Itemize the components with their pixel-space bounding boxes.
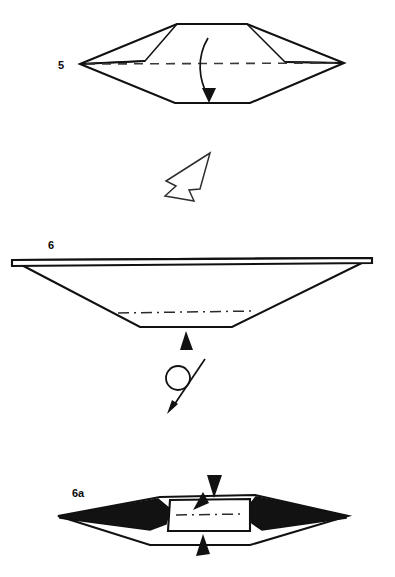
turn-over-symbol-group [166, 359, 205, 414]
hollow-arrow-group [165, 153, 210, 201]
step-6a-label: 6a [72, 487, 85, 499]
step-6a-left-dark-wedge [60, 499, 170, 530]
fold-direction-hollow-arrow-icon [165, 153, 210, 201]
step-6-push-up-arrowhead [180, 331, 193, 350]
step-6-label: 6 [48, 239, 54, 251]
step-6a-top-arrowhead [207, 475, 222, 498]
step-6a-right-dark-wedge [248, 497, 346, 530]
step-6-group: 6 [12, 239, 372, 350]
step-6a-group: 6a [58, 475, 348, 556]
step-5-label: 5 [58, 59, 64, 71]
origami-figure-canvas: 5 6 [0, 0, 395, 577]
step-5-group: 5 [58, 24, 344, 103]
origami-diagram-page: 5 6 [0, 0, 395, 577]
step-6-outline [12, 258, 372, 327]
